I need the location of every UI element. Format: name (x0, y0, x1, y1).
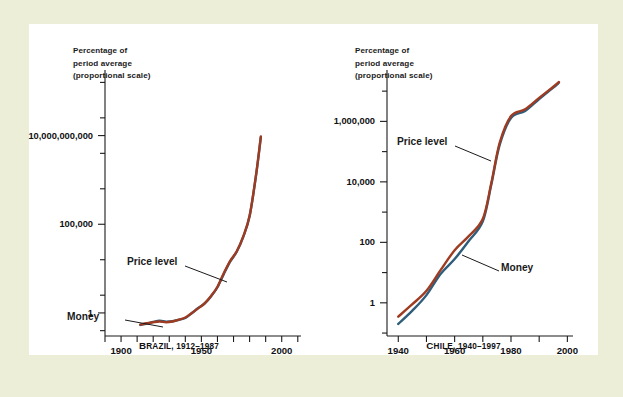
y-tick-label: 1 (370, 298, 375, 308)
figure-panel: Percentage of period average (proportion… (29, 24, 598, 355)
axis-header-line1-brazil: Percentage of (73, 44, 151, 58)
chart-brazil: Percentage of period average (proportion… (29, 24, 329, 355)
caption-brazil: BRAZIL, 1912–1987 (29, 340, 329, 351)
annotation-price-level: Price level (397, 136, 447, 147)
axis-header-line2-brazil: period average (73, 58, 151, 71)
plot-area-brazil: 1100,00010,000,000,000190019502000Price … (105, 70, 301, 336)
y-tick-label: 100,000 (59, 219, 93, 229)
y-tick-label: 10,000,000,000 (28, 131, 93, 141)
y-tick-label: 1,000,000 (334, 116, 375, 126)
annotation-money: Money (501, 262, 533, 273)
chart-chile: Percentage of period average (proportion… (329, 24, 598, 355)
axis-header-line2-chile: period average (355, 58, 433, 71)
caption-chile: CHILE, 1940–1997 (329, 340, 598, 351)
y-tick-label: 10,000 (347, 177, 375, 187)
plot-area-chile: 110010,0001,000,0001940196019802000Price… (387, 70, 573, 336)
caption-rest-chile: HILE, 1940–1997 (434, 342, 501, 351)
caption-rest-brazil: RAZIL, 1912–1987 (146, 342, 219, 351)
axis-header-line1-chile: Percentage of (355, 44, 433, 58)
caption-initial-chile: C (426, 340, 433, 351)
y-tick-label: 100 (359, 237, 375, 247)
annotation-price-level: Price level (127, 256, 177, 267)
annotation-money: Money (67, 311, 99, 322)
